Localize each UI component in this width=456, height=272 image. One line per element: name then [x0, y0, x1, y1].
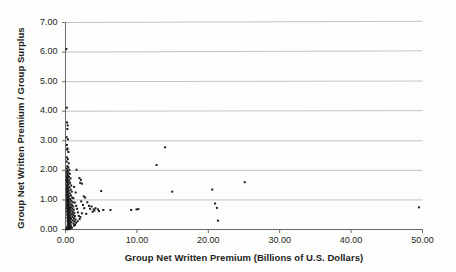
- y-tick-label: 3.00: [24, 135, 58, 145]
- data-point: [66, 228, 68, 230]
- y-tick-label: 6.00: [24, 46, 58, 56]
- data-point: [75, 222, 77, 224]
- data-point: [68, 162, 70, 164]
- data-point: [66, 160, 68, 162]
- data-point: [418, 206, 420, 208]
- data-point: [67, 158, 69, 160]
- axis-lines: [66, 23, 423, 230]
- y-tick-label: 2.00: [24, 164, 58, 174]
- data-point: [73, 212, 75, 214]
- data-point: [66, 136, 68, 138]
- data-point: [68, 183, 70, 185]
- data-point: [72, 205, 74, 207]
- data-point: [98, 210, 100, 212]
- x-axis-title: Group Net Written Premium (Billions of U…: [65, 252, 423, 264]
- data-point: [67, 124, 69, 126]
- data-point: [73, 225, 75, 227]
- y-axis-title: Group Net Written Premium / Group Surplu…: [14, 12, 28, 244]
- data-point: [75, 218, 77, 220]
- data-point: [66, 128, 68, 130]
- data-point: [83, 207, 85, 209]
- data-point: [76, 169, 78, 171]
- data-point: [66, 171, 68, 173]
- data-point: [136, 208, 138, 210]
- data-point: [70, 177, 72, 179]
- x-tick-label: 50.00: [403, 235, 443, 245]
- data-point: [72, 201, 74, 203]
- y-tick-label: 5.00: [24, 76, 58, 86]
- data-point: [244, 181, 246, 183]
- data-point: [75, 205, 77, 207]
- data-point: [70, 194, 72, 196]
- data-point: [80, 200, 82, 202]
- data-point: [93, 210, 95, 212]
- x-tick-label: 30.00: [260, 235, 300, 245]
- y-tick-label: 0.00: [24, 224, 58, 234]
- data-point: [94, 207, 96, 209]
- data-point: [66, 156, 68, 158]
- data-point: [77, 211, 79, 213]
- data-point: [102, 209, 104, 211]
- data-point: [66, 144, 68, 146]
- data-point: [85, 213, 87, 215]
- data-point: [73, 209, 75, 211]
- data-point: [156, 164, 158, 166]
- data-point: [68, 228, 70, 230]
- data-point: [217, 220, 219, 222]
- data-point: [66, 107, 68, 109]
- data-points: [65, 48, 420, 230]
- data-point: [84, 197, 86, 199]
- data-point: [216, 207, 218, 209]
- data-point: [69, 173, 71, 175]
- data-point: [171, 191, 173, 193]
- data-point: [70, 218, 72, 220]
- data-point: [100, 190, 102, 192]
- data-point: [68, 169, 70, 171]
- data-point: [79, 182, 81, 184]
- data-point: [70, 189, 72, 191]
- plot-canvas: [0, 0, 456, 272]
- data-point: [89, 208, 91, 210]
- data-point: [137, 208, 139, 210]
- data-point: [97, 208, 99, 210]
- data-point: [109, 209, 111, 211]
- data-point: [70, 184, 72, 186]
- data-point: [74, 215, 76, 217]
- data-point: [81, 212, 83, 214]
- scatter-chart: 0.001.002.003.004.005.006.007.00 0.0010.…: [0, 0, 456, 272]
- data-point: [79, 216, 81, 218]
- data-point: [92, 211, 94, 213]
- data-point: [66, 168, 68, 170]
- data-point: [66, 121, 68, 123]
- y-tick-label: 4.00: [24, 105, 58, 115]
- data-point: [211, 189, 213, 191]
- data-point: [70, 221, 72, 223]
- data-point: [74, 202, 76, 204]
- chart-screenshot: 0.001.002.003.004.005.006.007.00 0.0010.…: [0, 0, 456, 272]
- data-point: [67, 151, 69, 153]
- x-tick-label: 20.00: [188, 235, 228, 245]
- data-point: [72, 197, 74, 199]
- data-point: [76, 208, 78, 210]
- data-point: [81, 183, 83, 185]
- data-point: [66, 149, 68, 151]
- data-point: [71, 191, 73, 193]
- data-point: [71, 227, 73, 229]
- data-point: [75, 192, 77, 194]
- data-point: [79, 218, 81, 220]
- data-point: [88, 205, 90, 207]
- data-point: [78, 177, 80, 179]
- y-tick-label: 1.00: [24, 194, 58, 204]
- data-point: [80, 179, 82, 181]
- data-point: [82, 204, 84, 206]
- x-tick-label: 40.00: [331, 235, 371, 245]
- data-point: [91, 205, 93, 207]
- data-point: [67, 138, 69, 140]
- data-point: [164, 146, 166, 148]
- data-point: [65, 48, 67, 50]
- x-tick-label: 10.00: [117, 235, 157, 245]
- data-point: [130, 209, 132, 211]
- y-tick-label: 7.00: [24, 17, 58, 27]
- gridlines: [66, 21, 423, 200]
- data-point: [73, 186, 75, 188]
